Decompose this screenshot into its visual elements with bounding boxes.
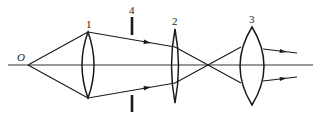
aperture-stop-4-label: 4 <box>129 4 135 16</box>
arrow-icon <box>280 77 288 81</box>
ray-o-to-lens1-upper <box>28 32 88 65</box>
lens-2 <box>172 29 179 103</box>
ray-o-to-lens1-lower <box>28 65 88 98</box>
arrow-icon <box>280 49 288 53</box>
lens-1-label: 1 <box>86 18 92 30</box>
arrow-icon <box>144 40 152 45</box>
arrow-icon <box>144 86 152 91</box>
object-point-label: O <box>17 51 25 63</box>
lens-3-label: 3 <box>249 13 255 25</box>
lens-2-label: 2 <box>172 15 178 27</box>
lens-3 <box>240 27 264 105</box>
optical-diagram: O 1 4 2 3 <box>0 0 320 118</box>
